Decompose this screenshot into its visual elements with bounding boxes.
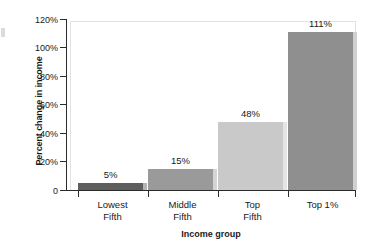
bar-edge [283,122,287,190]
x-tick-label-line1: Top [218,199,287,211]
x-tick-mark-3 [288,191,289,197]
x-tick-label-line2: Fifth [218,211,287,223]
x-tick-label-line1: Middle [148,199,217,211]
y-tick-label-80: 80% [24,72,58,82]
x-tick-label-line1: Top 1% [288,199,357,211]
bar-edge [143,183,147,190]
x-tick-label-lowest-fifth: Lowest Fifth [78,199,147,222]
bar-body [218,122,283,190]
bar-edge [213,169,217,190]
bar-lowest-fifth[interactable]: 5% [78,183,147,190]
x-tick-label-line1: Lowest [78,199,147,211]
y-tick-mark-0 [60,190,67,191]
page-edge-artifact [1,28,5,37]
bar-middle-fifth[interactable]: 15% [148,169,217,190]
bar-value-label: 48% [218,108,283,119]
x-axis-line [66,190,356,191]
x-tick-mark-0 [78,191,79,197]
x-tick-label-middle-fifth: Middle Fifth [148,199,217,222]
x-tick-label-top-fifth: Top Fifth [218,199,287,222]
bar-edge [353,32,357,190]
bar-value-label: 15% [148,155,213,166]
bar-body [148,169,213,190]
x-tick-label-line2: Fifth [78,211,147,223]
x-tick-mark-4 [355,191,356,197]
bar-body [288,32,353,190]
y-tick-label-40: 40% [24,129,58,139]
x-tick-label-top-one-percent: Top 1% [288,199,357,211]
bar-top-one-percent[interactable]: 111% [288,32,357,190]
x-tick-mark-2 [218,191,219,197]
bar-value-label: 111% [288,18,353,29]
y-tick-label-60: 60% [24,100,58,110]
x-axis-title: Income group [66,229,356,239]
x-tick-mark-1 [148,191,149,197]
y-tick-label-120: 120% [24,15,58,25]
plot-area: 5% 15% 48% 111% [66,19,356,190]
x-tick-label-line2: Fifth [148,211,217,223]
y-tick-label-0: 0 [24,186,58,196]
bar-value-label: 5% [78,169,143,180]
bar-body [78,183,143,190]
y-tick-label-20: 20% [24,157,58,167]
y-tick-label-group: 120% 100% 80% 60% 40% 20% 0 [24,0,58,247]
bar-chart: Percent change in income 120% 100% 80% 6… [0,0,379,247]
bar-top-fifth[interactable]: 48% [218,122,287,190]
y-tick-label-100: 100% [24,43,58,53]
